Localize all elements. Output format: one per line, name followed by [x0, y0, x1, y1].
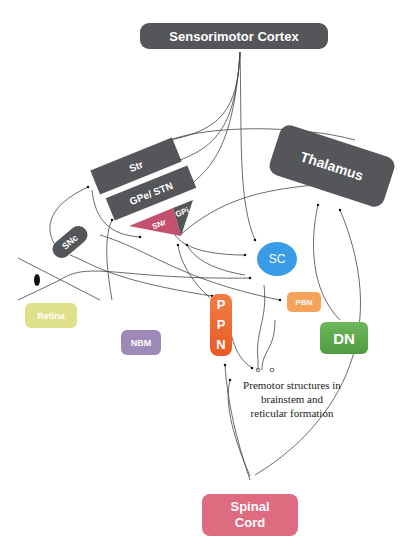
eye-icon [34, 274, 40, 286]
node-sensorimotor-cortex: Sensorimotor Cortex [140, 23, 328, 49]
premotor-annotation: Premotor structures in brainstem and ret… [222, 378, 362, 420]
node-sc: SC [257, 242, 297, 276]
premotor-line-3: reticular formation [222, 406, 362, 420]
node-ppn: P P N [210, 294, 232, 356]
premotor-line-2: brainstem and [222, 392, 362, 406]
node-pbn: PBN [287, 292, 321, 312]
node-dn: DN [320, 322, 368, 354]
node-retina: Retina [25, 303, 77, 328]
node-spinal-cord: Spinal Cord [202, 494, 298, 536]
node-nbm: NBM [121, 330, 161, 355]
premotor-line-1: Premotor structures in [222, 378, 362, 392]
connection-arrows [0, 0, 412, 549]
